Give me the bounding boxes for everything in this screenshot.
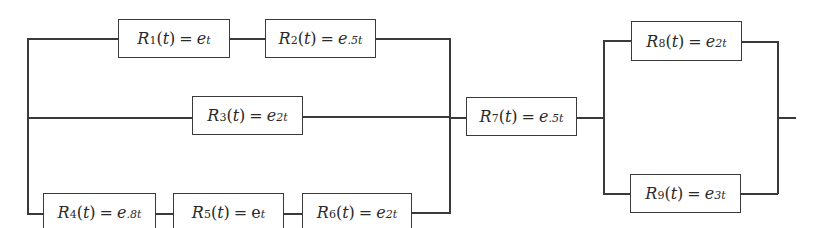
paren-close: ) — [239, 106, 245, 125]
block-r4-label: R4(t)=e.8t — [58, 203, 142, 222]
symbol-r: R — [480, 107, 492, 126]
block-r9-label: R9(t)=e3t — [645, 184, 725, 203]
paren-close: ) — [169, 29, 175, 48]
exp-base: e — [539, 107, 548, 126]
stage1-right-rail — [449, 38, 451, 214]
wire-r9-in — [603, 193, 631, 195]
exp-base: e — [117, 203, 126, 222]
equals-sign: = — [249, 106, 262, 125]
block-r7: R7(t)=e.5t — [466, 97, 577, 136]
symbol-r: R — [192, 203, 204, 222]
symbol-r: R — [279, 29, 291, 48]
wire-top-in — [27, 38, 119, 40]
paren-close: ) — [349, 203, 355, 222]
wire-stage1-to-r7 — [449, 117, 467, 119]
block-r8-label: R8(t)=e2t — [646, 32, 726, 51]
exp-base: e — [705, 184, 714, 203]
wire-r7-to-stage3 — [576, 117, 604, 119]
block-r9: R9(t)=e3t — [630, 174, 741, 213]
paren-close: ) — [224, 203, 230, 222]
exp-base: e — [251, 203, 260, 222]
symbol-r: R — [645, 184, 657, 203]
paren-close: ) — [511, 107, 517, 126]
block-r3: R3(t)=e2t — [192, 96, 303, 135]
wire-bottom-in — [27, 213, 44, 215]
wire-output — [777, 117, 796, 119]
exp-base: e — [706, 32, 715, 51]
symbol-r: R — [317, 203, 329, 222]
block-r1-label: R1(t)=et — [137, 29, 210, 48]
symbol-r: R — [207, 106, 219, 125]
equals-sign: = — [687, 184, 700, 203]
symbol-r: R — [58, 203, 70, 222]
stage3-left-rail — [603, 40, 605, 194]
symbol-r: R — [137, 29, 149, 48]
wire-bottom-out — [411, 212, 450, 214]
exp-base: e — [338, 29, 347, 48]
block-r5: R5(t)=et — [173, 193, 284, 228]
equals-sign: = — [100, 203, 113, 222]
block-r5-label: R5(t)=et — [192, 203, 265, 222]
equals-sign: = — [179, 29, 192, 48]
wire-r5-r6 — [283, 213, 303, 215]
exp-base: e — [376, 203, 385, 222]
paren-close: ) — [678, 32, 684, 51]
equals-sign: = — [688, 32, 701, 51]
equals-sign: = — [522, 107, 535, 126]
equals-sign: = — [359, 203, 372, 222]
paren-close: ) — [677, 184, 683, 203]
block-r7-label: R7(t)=e.5t — [480, 107, 564, 126]
wire-middle-out — [302, 116, 450, 118]
block-r1: R1(t)=et — [118, 19, 230, 58]
equals-sign: = — [234, 203, 247, 222]
exp-base: e — [267, 106, 276, 125]
block-r8: R8(t)=e2t — [631, 21, 742, 61]
block-r2: R2(t)=e.5t — [265, 19, 376, 58]
wire-r4-r5 — [155, 213, 174, 215]
wire-middle-in — [27, 117, 193, 119]
block-r2-label: R2(t)=e.5t — [279, 29, 363, 48]
block-r4: R4(t)=e.8t — [43, 193, 156, 228]
wire-r8-out — [741, 41, 778, 43]
block-r3-label: R3(t)=e2t — [207, 106, 287, 125]
paren-close: ) — [310, 29, 316, 48]
wire-r8-in — [603, 40, 632, 42]
wire-r9-out — [740, 193, 778, 195]
wire-r1-r2 — [229, 38, 266, 40]
reliability-block-diagram: R1(t)=et R2(t)=e.5t R3(t)=e2t R4(t)=e.8t… — [0, 0, 819, 228]
paren-close: ) — [89, 203, 95, 222]
equals-sign: = — [321, 29, 334, 48]
block-r6: R6(t)=e2t — [302, 193, 412, 228]
wire-top-out — [375, 38, 450, 40]
symbol-r: R — [646, 32, 658, 51]
block-r6-label: R6(t)=e2t — [317, 203, 397, 222]
exp-base: e — [197, 29, 206, 48]
stage1-left-rail — [27, 38, 29, 214]
